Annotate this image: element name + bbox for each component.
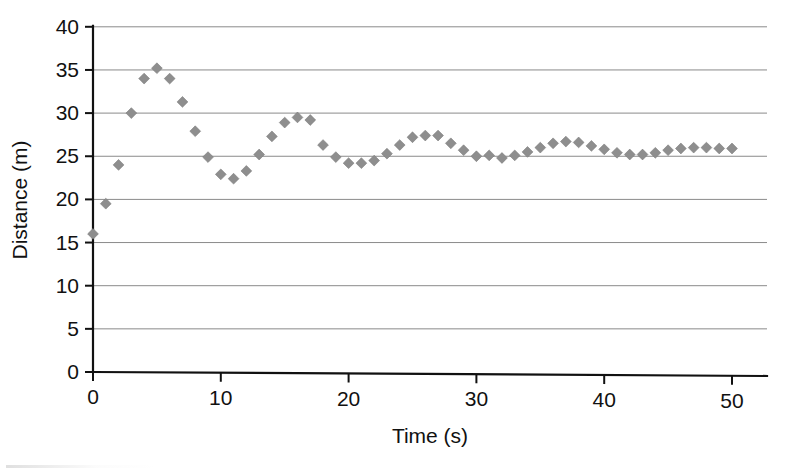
data-point [497,153,508,164]
data-point [318,140,329,151]
data-point [241,166,252,177]
data-point [292,112,303,123]
x-tick-label-40: 40 [593,388,616,411]
data-point [203,152,214,163]
data-point [560,136,571,147]
data-point [177,96,188,107]
data-point [126,108,137,119]
data-point [279,117,290,128]
x-tick-label-0: 0 [87,385,99,408]
data-point [471,151,482,162]
data-point [382,148,393,159]
data-point [599,144,610,155]
data-point [586,140,597,151]
data-point [343,158,354,169]
data-point [637,149,648,160]
data-point [535,142,546,153]
x-axis-title: Time (s) [392,424,468,447]
data-point [522,147,533,158]
data-point [663,145,674,156]
x-tick-label-10: 10 [209,386,232,409]
data-point [484,150,495,161]
data-point [394,140,405,151]
data-point [445,138,456,149]
data-point [420,130,431,141]
data-point [458,145,469,156]
x-tick-label-50: 50 [720,389,743,412]
data-point [548,138,559,149]
y-tick-label-25: 25 [56,144,79,167]
y-tick-label-40: 40 [56,15,79,38]
data-point [407,132,418,143]
y-tick-label-5: 5 [67,317,79,340]
data-point [356,158,367,169]
x-tick-label-20: 20 [337,387,360,410]
x-tick-label-30: 30 [465,387,488,410]
x-axis-line [93,372,767,376]
data-point [433,130,444,141]
data-point [369,155,380,166]
y-tick-label-10: 10 [56,274,79,297]
data-point [267,131,278,142]
chart-figure: 051015202530354001020304050 Time (s) Dis… [0,0,807,468]
scatter-plot-svg: 051015202530354001020304050 Time (s) Dis… [0,0,807,468]
data-point [254,149,265,160]
data-point [88,229,99,240]
y-axis-title: Distance (m) [8,140,31,259]
data-point [228,173,239,184]
data-point [675,143,686,154]
data-point [509,150,520,161]
data-markers-group [88,63,738,239]
data-point [190,126,201,137]
tick-marks-group [85,27,732,385]
data-point [727,143,738,154]
axes-group [93,26,767,376]
data-point [164,73,175,84]
data-point [624,149,635,160]
data-point [215,169,226,180]
data-point [113,159,124,170]
y-tick-label-30: 30 [56,101,79,124]
data-point [152,63,163,74]
gridlines-group [93,27,767,329]
data-point [330,152,341,163]
y-tick-label-20: 20 [56,187,79,210]
data-point [688,142,699,153]
data-point [305,115,316,126]
data-point [714,143,725,154]
data-point [701,142,712,153]
y-tick-label-0: 0 [67,360,79,383]
data-point [100,198,111,209]
tick-labels-group: 051015202530354001020304050 [56,15,744,412]
y-tick-label-35: 35 [56,58,79,81]
data-point [139,73,150,84]
data-point [573,137,584,148]
y-tick-label-15: 15 [56,231,79,254]
